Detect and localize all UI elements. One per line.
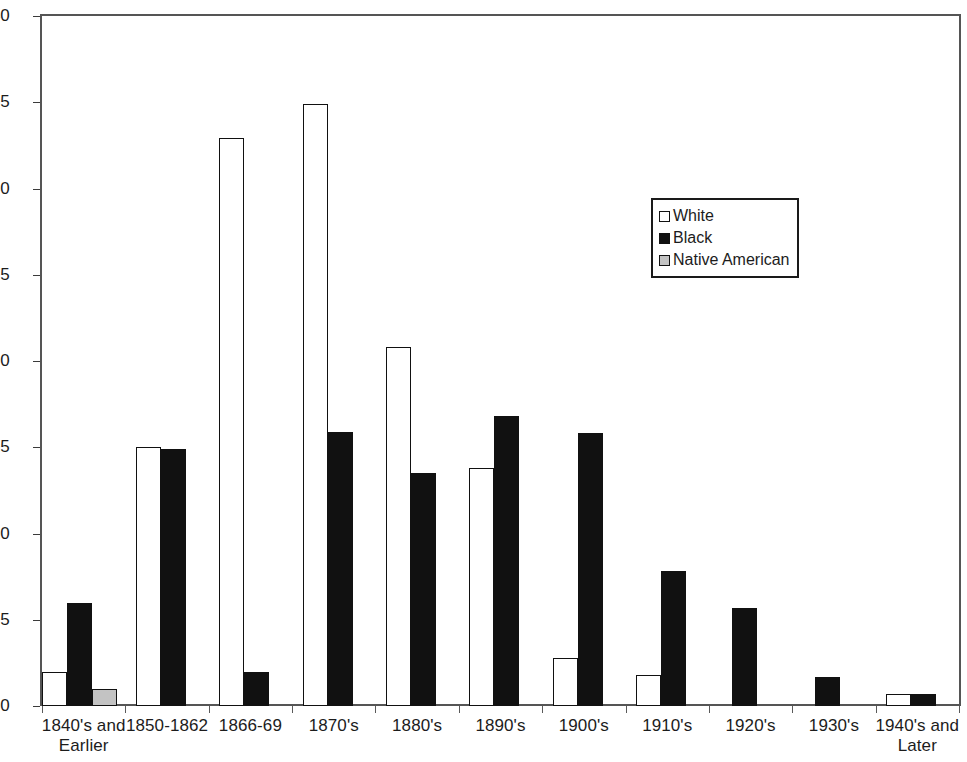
legend-swatch-native-icon xyxy=(659,255,670,266)
bar-chart: 0510152025303540 WhiteBlackNative Americ… xyxy=(0,0,967,762)
bar-black xyxy=(328,432,353,706)
bar-group xyxy=(792,16,875,706)
bar-group-bars xyxy=(459,16,542,706)
bar-group-bars xyxy=(709,16,792,706)
y-tick-mark xyxy=(33,275,40,276)
bar-black xyxy=(661,571,686,706)
x-tick-mark xyxy=(792,706,793,713)
x-tick-mark xyxy=(626,706,627,713)
bar-white xyxy=(136,447,161,706)
bar-black xyxy=(578,433,603,706)
chart-legend: WhiteBlackNative American xyxy=(651,198,799,278)
y-tick-mark xyxy=(33,447,40,448)
bar-group xyxy=(626,16,709,706)
bar-white xyxy=(303,104,328,706)
x-tick-mark xyxy=(959,706,960,713)
legend-item: White xyxy=(659,205,790,227)
bar-group xyxy=(876,16,959,706)
bar-black xyxy=(815,677,840,706)
bar-black xyxy=(161,449,186,706)
y-tick-label: 25 xyxy=(0,266,10,283)
bar-white xyxy=(886,694,911,706)
bar-white xyxy=(553,658,578,706)
x-tick-mark xyxy=(292,706,293,713)
y-tick-label: 0 xyxy=(0,697,10,714)
bar-white xyxy=(469,468,494,706)
bar-white xyxy=(636,675,661,706)
y-tick-mark xyxy=(33,706,40,707)
legend-swatch-black-icon xyxy=(659,233,670,244)
bar-group xyxy=(42,16,125,706)
bar-black xyxy=(411,473,436,706)
legend-swatch-white-icon xyxy=(659,211,670,222)
bar-group-bars xyxy=(375,16,458,706)
y-tick-mark xyxy=(33,189,40,190)
y-tick-label: 35 xyxy=(0,93,10,110)
bar-group-bars xyxy=(876,16,959,706)
y-tick-label: 40 xyxy=(0,7,10,24)
bar-black xyxy=(244,672,269,707)
bar-group-bars xyxy=(292,16,375,706)
x-tick-mark xyxy=(375,706,376,713)
bar-white xyxy=(219,138,244,706)
y-tick-label: 20 xyxy=(0,352,10,369)
bar-group-bars xyxy=(626,16,709,706)
bar-group xyxy=(459,16,542,706)
y-tick-mark xyxy=(33,16,40,17)
legend-label: Black xyxy=(673,230,712,246)
x-tick-mark xyxy=(876,706,877,713)
x-tick-mark xyxy=(542,706,543,713)
bar-group xyxy=(375,16,458,706)
y-tick-label: 15 xyxy=(0,438,10,455)
bar-group-bars xyxy=(792,16,875,706)
legend-item: Black xyxy=(659,227,790,249)
x-tick-mark xyxy=(459,706,460,713)
bar-black xyxy=(67,603,92,707)
bar-group xyxy=(125,16,208,706)
plot-area xyxy=(42,16,959,706)
x-tick-mark xyxy=(709,706,710,713)
x-axis-label: 1940's and Later xyxy=(868,716,967,756)
y-tick-label: 10 xyxy=(0,525,10,542)
y-tick-mark xyxy=(33,361,40,362)
bar-white xyxy=(386,347,411,706)
bar-group xyxy=(209,16,292,706)
bar-black xyxy=(494,416,519,706)
y-tick-mark xyxy=(33,620,40,621)
y-tick-mark xyxy=(33,534,40,535)
bar-group-bars xyxy=(209,16,292,706)
bar-group xyxy=(709,16,792,706)
bar-black xyxy=(732,608,757,706)
y-tick-mark xyxy=(33,102,40,103)
bar-group xyxy=(542,16,625,706)
bar-group-bars xyxy=(542,16,625,706)
x-tick-mark xyxy=(42,706,43,713)
bar-black xyxy=(911,694,936,706)
y-tick-label: 5 xyxy=(0,611,10,628)
x-tick-mark xyxy=(125,706,126,713)
bar-group-bars xyxy=(42,16,125,706)
legend-item: Native American xyxy=(659,249,790,271)
y-axis: 0510152025303540 xyxy=(0,0,40,762)
legend-label: Native American xyxy=(673,252,790,268)
bar-white xyxy=(42,672,67,707)
legend-label: White xyxy=(673,208,714,224)
y-tick-label: 30 xyxy=(0,180,10,197)
bar-group-bars xyxy=(125,16,208,706)
x-tick-mark xyxy=(209,706,210,713)
bar-native-american xyxy=(92,689,117,706)
bar-group xyxy=(292,16,375,706)
